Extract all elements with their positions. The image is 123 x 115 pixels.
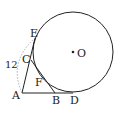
label-b: B xyxy=(52,94,60,107)
label-a: A xyxy=(11,89,21,102)
label-o: O xyxy=(77,47,86,60)
geometry-diagram: O E C F A B D 12 xyxy=(0,0,123,115)
center-point-o xyxy=(72,51,75,54)
label-d: D xyxy=(70,94,79,107)
label-e: E xyxy=(30,27,38,40)
label-f: F xyxy=(35,76,43,89)
label-c: C xyxy=(22,53,30,66)
label-measure-12: 12 xyxy=(5,59,18,70)
